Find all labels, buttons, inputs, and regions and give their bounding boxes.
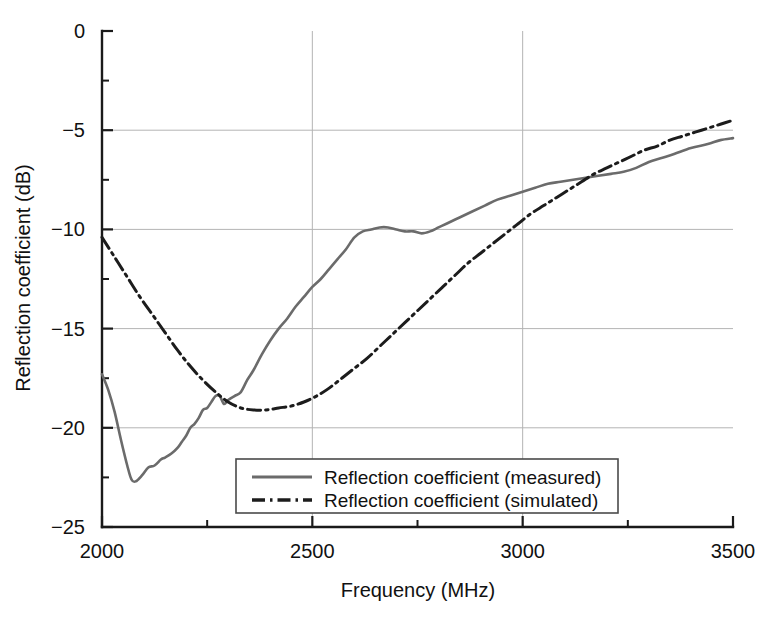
y-axis-title: Reflection coefficient (dB) — [12, 164, 34, 392]
axes-group — [102, 31, 733, 527]
y-tick-label: −15 — [51, 318, 85, 340]
ticks-group — [102, 31, 733, 527]
figure-container: 0−5−10−15−20−252000250030003500 Frequenc… — [0, 0, 770, 621]
legend-label-simulated: Reflection coefficient (simulated) — [324, 490, 598, 511]
x-tick-label: 2000 — [80, 540, 125, 562]
reflection-coefficient-chart: 0−5−10−15−20−252000250030003500 Frequenc… — [0, 0, 770, 621]
chart-legend: Reflection coefficient (measured) Reflec… — [236, 459, 618, 513]
x-axis-title: Frequency (MHz) — [341, 579, 495, 601]
x-tick-label: 2500 — [290, 540, 335, 562]
y-tick-label: 0 — [74, 20, 85, 42]
y-tick-label: −25 — [51, 516, 85, 538]
y-tick-label: −5 — [62, 119, 85, 141]
y-tick-label: −10 — [51, 218, 85, 240]
y-tick-label: −20 — [51, 417, 85, 439]
x-tick-label: 3500 — [711, 540, 756, 562]
x-tick-label: 3000 — [500, 540, 545, 562]
legend-label-measured: Reflection coefficient (measured) — [324, 467, 601, 488]
series-line-simulated — [102, 120, 733, 410]
gridlines-group — [102, 31, 733, 527]
